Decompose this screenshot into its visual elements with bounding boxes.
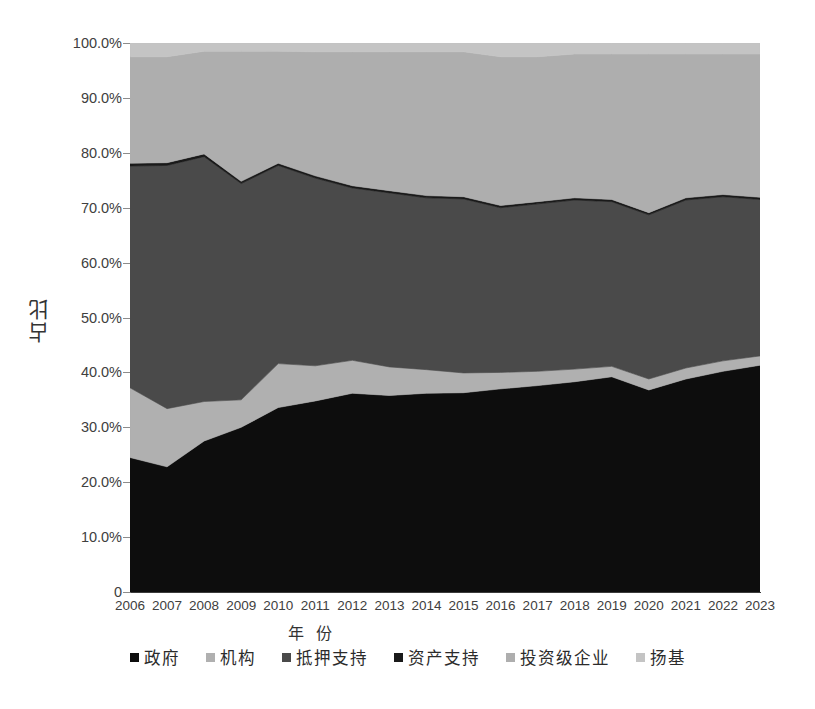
x-axis-tick-label: 2015: [448, 598, 478, 613]
legend-item[interactable]: 抵押支持: [282, 645, 368, 669]
legend-label: 投资级企业: [520, 645, 610, 669]
x-axis-tick-label: 2008: [189, 598, 219, 613]
x-axis-tick-label: 2022: [708, 598, 738, 613]
x-axis-tick-label: 2012: [337, 598, 367, 613]
legend-label: 资产支持: [408, 645, 480, 669]
x-axis-tick-label: 2019: [597, 598, 627, 613]
chart-legend: 政府机构抵押支持资产支持投资级企业扬基: [0, 645, 815, 669]
legend-swatch-icon: [394, 653, 403, 662]
legend-swatch-icon: [282, 653, 291, 662]
x-axis-tick-label: 2007: [152, 598, 182, 613]
x-axis-tick-label: 2021: [671, 598, 701, 613]
legend-swatch-icon: [130, 653, 139, 662]
x-axis-tick-label: 2020: [634, 598, 664, 613]
x-axis-tick-label: 2006: [115, 598, 145, 613]
legend-label: 政府: [144, 645, 180, 669]
x-axis-tick-label: 2018: [560, 598, 590, 613]
legend-swatch-icon: [636, 653, 645, 662]
legend-item[interactable]: 政府: [130, 645, 180, 669]
x-axis-title: 年 份: [288, 620, 336, 644]
legend-item[interactable]: 机构: [206, 645, 256, 669]
x-axis-tick-label: 2017: [523, 598, 553, 613]
legend-item[interactable]: 投资级企业: [506, 645, 610, 669]
x-axis-tick-label: 2023: [745, 598, 775, 613]
legend-label: 机构: [220, 645, 256, 669]
x-axis-labels: 2006200720082009201020112012201320142015…: [0, 0, 815, 709]
legend-swatch-icon: [206, 653, 215, 662]
legend-item[interactable]: 资产支持: [394, 645, 480, 669]
stacked-area-chart: 占比 010.0%20.0%30.0%40.0%50.0%60.0%70.0%8…: [0, 0, 815, 709]
x-axis-tick-label: 2016: [486, 598, 516, 613]
x-axis-tick-label: 2011: [301, 598, 330, 613]
legend-label: 抵押支持: [296, 645, 368, 669]
x-axis-tick-label: 2013: [374, 598, 404, 613]
x-axis-tick-label: 2014: [411, 598, 441, 613]
x-axis-tick-label: 2009: [226, 598, 256, 613]
legend-item[interactable]: 扬基: [636, 645, 686, 669]
x-axis-tick-label: 2010: [263, 598, 293, 613]
legend-label: 扬基: [650, 645, 686, 669]
legend-swatch-icon: [506, 653, 515, 662]
